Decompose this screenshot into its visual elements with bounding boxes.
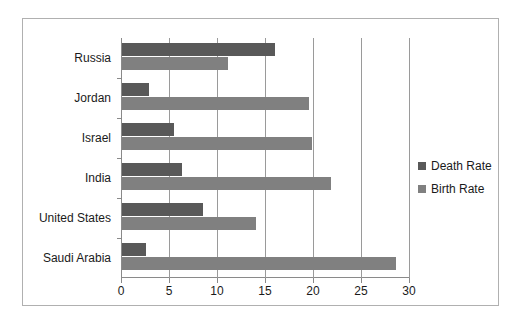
bar-birth-rate (122, 217, 256, 230)
x-tick-20 (313, 278, 314, 283)
x-tick-5 (169, 278, 170, 283)
legend-swatch-icon (418, 162, 426, 170)
gridline-20 (313, 38, 314, 278)
gridline-25 (361, 38, 362, 278)
y-axis-label-jordan: Jordan (74, 91, 111, 105)
legend-item-birth-rate[interactable]: Birth Rate (418, 182, 498, 196)
x-tick-label-20: 20 (306, 284, 319, 298)
bar-death-rate (122, 163, 182, 176)
gridline-30 (409, 38, 410, 278)
y-axis-label-israel: Israel (82, 131, 111, 145)
x-tick-label-5: 5 (166, 284, 173, 298)
chart-figure: RussiaJordanIsraelIndiaUnited StatesSaud… (22, 18, 499, 306)
bar-birth-rate (122, 97, 309, 110)
x-tick-label-15: 15 (258, 284, 271, 298)
x-tick-30 (409, 278, 410, 283)
bar-death-rate (122, 43, 275, 56)
category-tick (117, 158, 121, 159)
x-tick-label-10: 10 (210, 284, 223, 298)
bar-death-rate (122, 203, 203, 216)
bar-death-rate (122, 83, 149, 96)
y-axis-category-labels: RussiaJordanIsraelIndiaUnited StatesSaud… (23, 38, 117, 278)
category-tick (117, 198, 121, 199)
category-tick (117, 238, 121, 239)
chart-legend: Death RateBirth Rate (418, 159, 498, 205)
gridline-15 (265, 38, 266, 278)
x-tick-0 (121, 278, 122, 283)
x-tick-label-25: 25 (354, 284, 367, 298)
y-axis-label-saudi-arabia: Saudi Arabia (43, 251, 111, 265)
legend-swatch-icon (418, 185, 426, 193)
bar-death-rate (122, 123, 174, 136)
category-tick (117, 78, 121, 79)
category-tick (117, 118, 121, 119)
x-tick-label-30: 30 (402, 284, 415, 298)
bar-birth-rate (122, 137, 312, 150)
x-tick-15 (265, 278, 266, 283)
bar-death-rate (122, 243, 146, 256)
x-tick-10 (217, 278, 218, 283)
y-axis-label-india: India (85, 171, 111, 185)
x-tick-25 (361, 278, 362, 283)
plot-area (121, 38, 409, 278)
bar-birth-rate (122, 257, 396, 270)
legend-label: Birth Rate (431, 182, 484, 196)
y-axis-line (121, 38, 122, 278)
bar-birth-rate (122, 177, 331, 190)
x-axis: 051015202530 (121, 278, 409, 304)
legend-label: Death Rate (431, 159, 492, 173)
gridline-5 (169, 38, 170, 278)
legend-item-death-rate[interactable]: Death Rate (418, 159, 498, 173)
y-axis-label-united-states: United States (39, 211, 111, 225)
bar-birth-rate (122, 57, 228, 70)
gridline-10 (217, 38, 218, 278)
y-axis-label-russia: Russia (74, 51, 111, 65)
x-tick-label-0: 0 (118, 284, 125, 298)
